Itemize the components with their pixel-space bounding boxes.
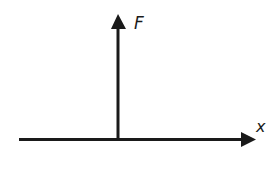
force-arrowhead-icon xyxy=(111,14,126,29)
force-axis-label: F xyxy=(134,15,144,32)
displacement-axis-label: x xyxy=(256,119,265,135)
x-axis-arrowhead-icon xyxy=(241,132,256,147)
